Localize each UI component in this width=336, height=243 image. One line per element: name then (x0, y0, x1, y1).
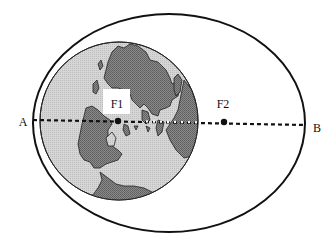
point-a-label: A (19, 115, 28, 129)
focus2-label: F2 (217, 97, 230, 111)
point-b-label: B (313, 121, 321, 135)
earth-globe (40, 42, 198, 210)
orbit-diagram-svg: F1 F2 A B (0, 0, 336, 243)
focus2-point (221, 119, 227, 125)
orbit-diagram: F1 F2 A B (0, 0, 336, 243)
focus1-point (115, 118, 121, 124)
focus1-label: F1 (111, 97, 124, 111)
